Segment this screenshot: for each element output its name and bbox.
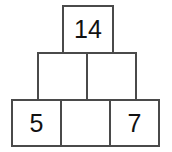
pyramid-row-top: 14	[62, 5, 114, 54]
pyramid-row-middle	[37, 52, 137, 101]
pyramid-cell-middle-1[interactable]	[37, 52, 88, 101]
number-pyramid-figure: 14 5 7	[0, 0, 172, 152]
pyramid-cell-bottom-2[interactable]	[60, 99, 111, 147]
pyramid-cell-top-1[interactable]: 14	[62, 5, 114, 54]
pyramid-cell-bottom-3[interactable]: 7	[109, 99, 160, 147]
pyramid-cell-bottom-1[interactable]: 5	[11, 99, 62, 147]
pyramid-cell-middle-2[interactable]	[86, 52, 137, 101]
pyramid-row-bottom: 5 7	[11, 99, 160, 147]
